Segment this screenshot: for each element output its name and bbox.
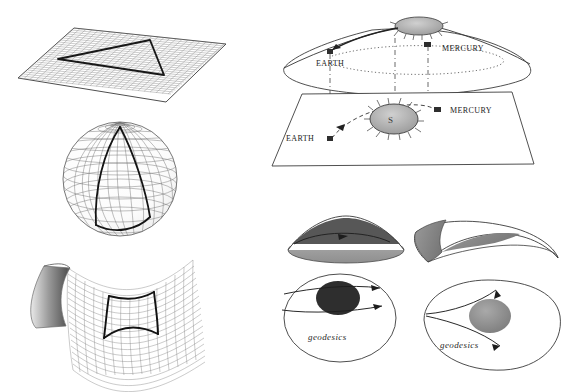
spacetime-figure: EARTH MERCURY [272, 6, 572, 176]
sphere-figure [56, 113, 184, 243]
sun-upper [395, 17, 443, 35]
saddle-mesh [67, 260, 205, 392]
mercury-marker-lower [434, 107, 441, 112]
converging-geodesics-label: geodesics [308, 332, 347, 342]
saddle-figure [8, 248, 250, 388]
mercury-label-lower: MERCURY [450, 106, 492, 115]
diverging-mass [469, 299, 511, 333]
mercury-marker-upper [424, 42, 431, 47]
flat-plane-figure [14, 20, 234, 105]
saddle-edge [428, 245, 558, 262]
converging-geodesics-figure: geodesics [282, 266, 408, 376]
diverging-geodesics-figure: geodesics [418, 268, 570, 380]
cone-ridge-shade [292, 218, 400, 244]
shaded-saddle-surface-figure [408, 208, 568, 270]
illustration-canvas: EARTH MERCURY [0, 0, 580, 392]
earth-label-lower: EARTH [286, 134, 314, 143]
earth-marker-lower [327, 136, 333, 141]
sun-label-lower: S [388, 115, 393, 125]
mercury-label-upper: MERCURY [442, 44, 484, 53]
funnel-lip [31, 264, 70, 328]
curved-sheet: EARTH MERCURY [284, 17, 531, 95]
sun-lower [370, 104, 418, 134]
diverging-geodesics-label: geodesics [440, 340, 479, 350]
shaded-cone-surface-figure [284, 208, 414, 270]
flat-sheet: S EARTH MERCURY [272, 92, 534, 166]
